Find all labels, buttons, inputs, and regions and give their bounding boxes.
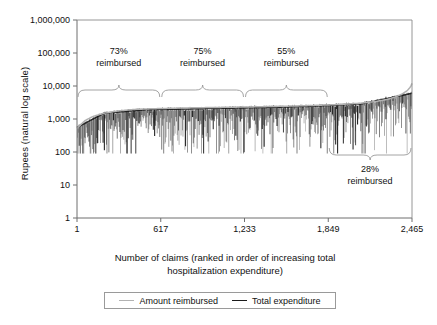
annotation-brace-55 <box>246 85 328 97</box>
y-axis-tick-label: 10,000 <box>8 81 70 91</box>
y-axis-tick-label: 1,000,000 <box>8 15 70 25</box>
x-axis-title: Number of claims (ranked in order of inc… <box>60 252 390 277</box>
annotation-percent: 75% <box>180 46 225 58</box>
chart-legend: Amount reimbursed Total expenditure <box>104 292 336 309</box>
annotation-text: reimbursed <box>96 58 141 70</box>
legend-label: Amount reimbursed <box>139 296 218 306</box>
annotation-brace-75 <box>162 85 244 97</box>
x-axis-tick-label: 1,233 <box>233 224 256 234</box>
y-axis-tick-label: 100,000 <box>8 48 70 58</box>
annotation-label-75: 75%reimbursed <box>180 46 225 69</box>
annotation-text: reimbursed <box>264 58 309 70</box>
annotation-label-28: 28%reimbursed <box>348 164 393 187</box>
annotation-text: reimbursed <box>180 58 225 70</box>
y-axis-tick-label: 100 <box>8 147 70 157</box>
y-axis-tick-label: 1 <box>8 213 70 223</box>
annotation-percent: 28% <box>348 164 393 176</box>
annotation-text: reimbursed <box>348 176 393 188</box>
legend-swatch-line-icon <box>232 300 247 301</box>
annotation-label-73: 73%reimbursed <box>96 46 141 69</box>
legend-label: Total expenditure <box>252 296 321 306</box>
legend-item-total-expenditure[interactable]: Total expenditure <box>232 296 321 306</box>
x-axis-tick-label: 2,465 <box>401 224 424 234</box>
annotation-label-55: 55%reimbursed <box>264 46 309 69</box>
x-axis-title-line2: hospitalization expenditure) <box>60 265 390 278</box>
y-axis-tick-label: 1,000 <box>8 114 70 124</box>
legend-item-amount-reimbursed[interactable]: Amount reimbursed <box>119 296 218 306</box>
x-axis-tick-label: 1 <box>74 224 79 234</box>
annotation-brace-73 <box>78 85 160 97</box>
series-total-expenditure <box>77 92 412 154</box>
y-axis-title: Rupees (natural log scale) <box>19 39 30 209</box>
legend-swatch-line-icon <box>119 300 134 301</box>
x-axis-title-line1: Number of claims (ranked in order of inc… <box>60 252 390 265</box>
x-axis-tick-label: 617 <box>153 224 168 234</box>
y-axis-tick-label: 10 <box>8 180 70 190</box>
x-axis-tick-label: 1,849 <box>317 224 340 234</box>
annotation-brace-28 <box>329 148 411 160</box>
annotation-percent: 73% <box>96 46 141 58</box>
annotation-percent: 55% <box>264 46 309 58</box>
